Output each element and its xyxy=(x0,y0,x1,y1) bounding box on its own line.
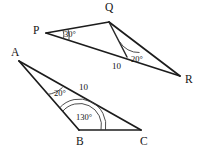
angle-label-b-130: 130° xyxy=(76,112,92,122)
side-label-pr-10: 10 xyxy=(112,61,122,71)
angle-label-q-20: 20° xyxy=(131,54,143,64)
segment-pq xyxy=(46,22,109,33)
geometry-canvas: P Q R 30° 20° 10 A B C 20° 130° 10 xyxy=(0,0,205,149)
vertex-label-p: P xyxy=(33,24,39,36)
angle-label-a-20: 20° xyxy=(54,88,66,98)
side-label-ac-10: 10 xyxy=(79,82,89,92)
angle-label-p-30: 30° xyxy=(64,29,76,39)
vertex-label-q: Q xyxy=(105,1,114,13)
vertex-label-r: R xyxy=(185,73,193,85)
segment-ab xyxy=(19,61,79,130)
segment-q-interior xyxy=(109,22,127,57)
vertex-label-c: C xyxy=(140,135,148,147)
geometry-figure: P Q R 30° 20° 10 A B C 20° 130° 10 xyxy=(0,0,205,149)
vertex-label-b: B xyxy=(76,135,84,147)
vertex-label-a: A xyxy=(11,46,20,58)
